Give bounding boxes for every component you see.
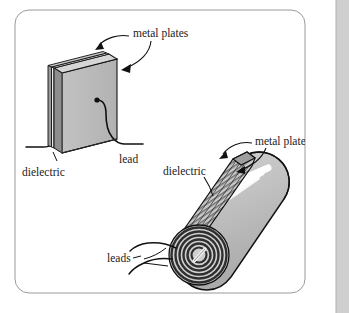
label-flat-metal-plates: metal plates xyxy=(133,27,189,40)
label-flat-dielectric: dielectric xyxy=(22,166,65,178)
label-flat-lead: lead xyxy=(119,153,138,165)
label-rolled-metal-plates: metal plates xyxy=(255,135,311,148)
right-edge-band xyxy=(336,0,349,313)
label-rolled-leads: leads xyxy=(107,252,131,264)
back-plate-left-edge xyxy=(48,66,52,148)
capacitor-figure: metal plates dielectric lead xyxy=(0,0,349,313)
spiral-cross-section xyxy=(169,225,229,285)
front-plate-left-edge xyxy=(54,68,62,153)
front-plate-face xyxy=(62,59,117,153)
label-rolled-dielectric: dielectric xyxy=(163,165,206,177)
